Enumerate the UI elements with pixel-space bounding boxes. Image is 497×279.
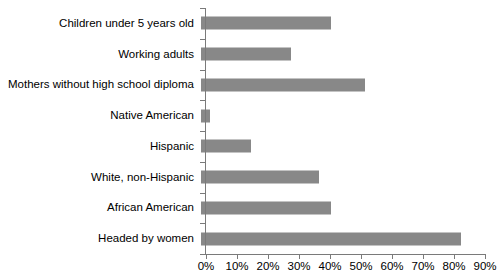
bar-chart: Children under 5 years oldWorking adults… — [0, 0, 497, 279]
bar-category-label: African American — [0, 201, 200, 214]
bar-track — [200, 193, 485, 224]
x-axis-tick — [454, 255, 455, 259]
x-axis-ticks: 0%10%20%30%40%50%60%70%80%90% — [0, 255, 497, 279]
bar-category-label: White, non-Hispanic — [0, 171, 200, 184]
bar — [201, 171, 319, 184]
bar-category-label: Mothers without high school diploma — [0, 78, 200, 91]
bar-category-label: Working adults — [0, 48, 200, 61]
x-axis-tick-label: 50% — [349, 260, 372, 272]
chart-bar-row: Mothers without high school diploma — [0, 70, 497, 101]
bar-track — [200, 131, 485, 162]
x-axis-tick — [237, 255, 238, 259]
x-axis-tick — [330, 255, 331, 259]
y-axis-line — [205, 8, 206, 255]
bar — [201, 140, 251, 153]
x-axis-tick-label: 20% — [256, 260, 279, 272]
x-axis-tick-label: 0% — [198, 260, 215, 272]
x-axis-tick-label: 60% — [380, 260, 403, 272]
y-axis-tick — [200, 254, 205, 255]
x-axis-tick — [485, 255, 486, 259]
x-axis-tick-label: 40% — [318, 260, 341, 272]
y-axis-tick — [200, 223, 205, 224]
x-axis-tick-label: 90% — [473, 260, 496, 272]
bar-track — [200, 39, 485, 70]
x-axis-tick — [392, 255, 393, 259]
y-axis-tick — [200, 162, 205, 163]
bar-category-label: Children under 5 years old — [0, 17, 200, 30]
x-axis-tick-label: 30% — [287, 260, 310, 272]
x-axis-tick-label: 70% — [411, 260, 434, 272]
bar-track — [200, 100, 485, 131]
chart-bar-row: Hispanic — [0, 131, 497, 162]
y-axis-tick — [200, 131, 205, 132]
x-axis-tick-label: 80% — [442, 260, 465, 272]
bar — [201, 17, 331, 30]
bar-track — [200, 70, 485, 101]
bar — [201, 232, 461, 245]
bar — [201, 78, 365, 91]
x-axis-tick-label: 10% — [225, 260, 248, 272]
x-axis-tick — [268, 255, 269, 259]
y-axis-tick — [200, 70, 205, 71]
chart-bar-row: African American — [0, 193, 497, 224]
x-axis-tick — [423, 255, 424, 259]
bar-category-label: Native American — [0, 109, 200, 122]
x-axis-tick — [361, 255, 362, 259]
chart-rows: Children under 5 years oldWorking adults… — [0, 0, 497, 246]
bar — [201, 48, 291, 61]
bar-track — [200, 8, 485, 39]
bar — [201, 201, 331, 214]
x-axis-tick — [299, 255, 300, 259]
y-axis-tick — [200, 8, 205, 9]
chart-bar-row: Headed by women — [0, 223, 497, 254]
y-axis-tick — [200, 39, 205, 40]
y-axis-tick — [200, 100, 205, 101]
bar-category-label: Headed by women — [0, 232, 200, 245]
chart-bar-row: Native American — [0, 100, 497, 131]
chart-bar-row: Working adults — [0, 39, 497, 70]
bar-track — [200, 223, 485, 254]
chart-bar-row: White, non-Hispanic — [0, 162, 497, 193]
bar-track — [200, 162, 485, 193]
chart-bar-row: Children under 5 years old — [0, 8, 497, 39]
bar-category-label: Hispanic — [0, 140, 200, 153]
y-axis-tick — [200, 193, 205, 194]
x-axis-tick — [206, 255, 207, 259]
